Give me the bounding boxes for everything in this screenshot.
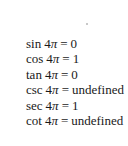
result-value: 1 bbox=[73, 51, 80, 66]
scan-speck bbox=[86, 23, 88, 25]
equals-sign: = bbox=[60, 36, 67, 51]
equals-sign: = bbox=[62, 82, 69, 97]
equals-sign: = bbox=[62, 98, 69, 113]
function-name: tan bbox=[26, 67, 42, 82]
pi-symbol: π bbox=[52, 98, 59, 113]
trig-values-list: sin4π=0 cos4π=1 tan4π=0 csc4π=undefined … bbox=[26, 36, 124, 128]
equation-cos: cos4π=1 bbox=[26, 51, 124, 66]
pi-symbol: π bbox=[51, 36, 58, 51]
equation-tan: tan4π=0 bbox=[26, 67, 124, 82]
function-name: cos bbox=[26, 51, 43, 66]
equals-sign: = bbox=[61, 113, 68, 128]
pi-symbol: π bbox=[52, 82, 59, 97]
result-value: 1 bbox=[72, 98, 79, 113]
result-value: 0 bbox=[71, 36, 78, 51]
equation-cot: cot4π=undefined bbox=[26, 113, 124, 128]
equation-sec: sec4π=1 bbox=[26, 98, 124, 113]
result-value: 0 bbox=[71, 67, 78, 82]
pi-symbol: π bbox=[53, 51, 60, 66]
result-value: undefined bbox=[72, 82, 124, 97]
equals-sign: = bbox=[61, 67, 68, 82]
equals-sign: = bbox=[62, 51, 69, 66]
pi-symbol: π bbox=[51, 67, 58, 82]
function-name: cot bbox=[26, 113, 42, 128]
function-name: csc bbox=[26, 82, 43, 97]
equation-csc: csc4π=undefined bbox=[26, 82, 124, 97]
pi-symbol: π bbox=[51, 113, 58, 128]
equation-sin: sin4π=0 bbox=[26, 36, 124, 51]
result-value: undefined bbox=[71, 113, 123, 128]
function-name: sin bbox=[26, 36, 41, 51]
function-name: sec bbox=[26, 98, 43, 113]
